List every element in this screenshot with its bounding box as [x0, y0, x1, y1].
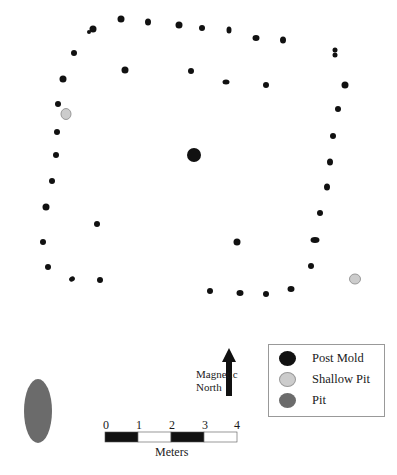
- post-mold: [188, 68, 194, 74]
- pit-swatch-icon: [279, 393, 296, 408]
- center-post-mold: [187, 148, 201, 162]
- pit: [24, 379, 52, 443]
- post-mold: [45, 264, 51, 270]
- post-mold: [199, 25, 205, 31]
- post-mold: [311, 237, 320, 243]
- post-mold: [333, 48, 338, 53]
- legend-label: Shallow Pit: [312, 372, 370, 387]
- scale-unit-label: Meters: [155, 445, 188, 460]
- scale-bar-segment: [171, 432, 204, 442]
- post-mold-swatch-icon: [279, 351, 296, 366]
- post-mold: [176, 22, 183, 29]
- post-mold: [145, 19, 151, 26]
- post-mold: [53, 152, 59, 158]
- scale-bar-segment: [204, 432, 237, 442]
- post-mold: [54, 129, 60, 135]
- post-mold: [118, 16, 125, 23]
- post-mold: [234, 239, 241, 246]
- post-mold: [330, 133, 336, 139]
- scale-tick-3: 3: [202, 418, 208, 433]
- post-mold: [97, 277, 103, 283]
- post-mold: [94, 221, 100, 227]
- scale-tick-0: 0: [103, 418, 109, 433]
- scale-tick-4: 4: [234, 418, 240, 433]
- post-mold: [68, 275, 76, 283]
- post-mold: [55, 101, 61, 107]
- post-mold: [207, 288, 213, 294]
- post-mold: [308, 263, 314, 269]
- post-mold: [87, 30, 91, 34]
- scale-tick-1: 1: [136, 418, 142, 433]
- legend-item-shallow-pit: Shallow Pit: [269, 370, 384, 390]
- scale-bar-segment: [138, 432, 171, 442]
- shallow-pit: [61, 109, 71, 120]
- post-mold: [40, 239, 46, 245]
- legend-item-post-mold: Post Mold: [269, 349, 384, 369]
- post-mold: [223, 80, 230, 85]
- post-mold: [327, 159, 333, 166]
- post-mold: [60, 76, 67, 83]
- post-mold: [253, 35, 260, 41]
- post-mold: [288, 286, 295, 292]
- post-mold: [333, 53, 338, 58]
- scale-bar-segment: [105, 432, 138, 442]
- post-mold: [342, 82, 349, 89]
- north-label: Magnetic North: [196, 368, 238, 394]
- shallow-pit: [350, 274, 361, 284]
- site-plan-figure: Magnetic North 0 1 2 3 4 Meters Post Mol…: [0, 0, 397, 475]
- post-mold: [71, 50, 77, 56]
- post-mold: [43, 204, 50, 211]
- legend: Post Mold Shallow Pit Pit: [268, 344, 385, 417]
- legend-label: Post Mold: [312, 351, 364, 366]
- north-label-line2: North: [196, 381, 238, 394]
- post-mold: [324, 184, 330, 191]
- post-mold: [49, 178, 55, 184]
- scale-tick-2: 2: [169, 418, 175, 433]
- legend-item-pit: Pit: [269, 391, 384, 411]
- post-mold: [263, 291, 269, 297]
- post-mold: [122, 67, 129, 74]
- post-mold: [237, 290, 244, 296]
- post-mold: [227, 27, 232, 34]
- post-mold: [263, 82, 269, 88]
- north-label-line1: Magnetic: [196, 368, 238, 381]
- post-mold: [335, 106, 341, 112]
- shallow-pit-swatch-icon: [279, 372, 296, 387]
- legend-label: Pit: [312, 393, 326, 408]
- post-mold: [280, 37, 286, 44]
- post-mold: [317, 210, 323, 216]
